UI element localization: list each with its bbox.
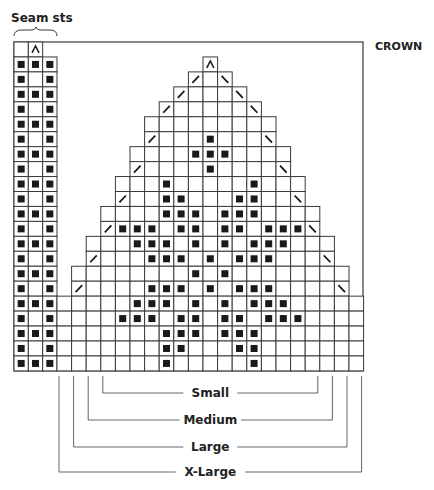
chart-cell (305, 326, 320, 341)
chart-cell (291, 206, 306, 221)
chart-cell (115, 326, 130, 341)
seam-cell (28, 281, 42, 296)
chart-cell (159, 221, 174, 236)
chart-cell (101, 296, 116, 311)
chart-cell (218, 177, 233, 192)
purl-dot-icon (192, 300, 199, 307)
purl-dot-icon (46, 315, 53, 322)
chart-cell (291, 326, 306, 341)
purl-dot-icon (18, 106, 25, 113)
chart-cell (276, 326, 291, 341)
purl-dot-icon (18, 300, 25, 307)
purl-dot-icon (221, 151, 228, 158)
purl-dot-icon (46, 136, 53, 143)
chart-cell (261, 177, 276, 192)
chart-cell (218, 341, 233, 356)
chart-cell (261, 266, 276, 281)
chart-cell (86, 326, 101, 341)
chart-cell (261, 162, 276, 177)
chart-cell (203, 72, 218, 87)
purl-dot-icon (251, 360, 258, 367)
chart-cell (115, 266, 130, 281)
purl-dot-icon (148, 255, 155, 262)
chart-cell (72, 296, 87, 311)
chart-cell (72, 326, 87, 341)
chart-cell (320, 296, 335, 311)
chart-cell (247, 311, 262, 326)
purl-dot-icon (207, 136, 214, 143)
chart-cell (72, 356, 87, 371)
chart-cell (305, 281, 320, 296)
chart-cell (218, 162, 233, 177)
chart-cell (203, 341, 218, 356)
purl-dot-icon (178, 255, 185, 262)
chart-cell (159, 311, 174, 326)
chart-cell (247, 147, 262, 162)
knitting-chart: Seam sts CROWN SmallMediumLargeX-Large (0, 0, 434, 490)
purl-dot-icon (46, 300, 53, 307)
purl-dot-icon (46, 106, 53, 113)
seam-cell (28, 132, 42, 147)
purl-dot-icon (46, 210, 53, 217)
purl-dot-icon (207, 166, 214, 173)
chart-cell (305, 206, 320, 221)
chart-cell (188, 117, 203, 132)
chart-cell (218, 102, 233, 117)
purl-dot-icon (294, 225, 301, 232)
purl-dot-icon (32, 240, 39, 247)
seam-cell (28, 102, 42, 117)
purl-dot-icon (251, 255, 258, 262)
chart-cell (188, 87, 203, 102)
chart-cell (145, 206, 160, 221)
chart-cell (101, 251, 116, 266)
purl-dot-icon (32, 61, 39, 68)
purl-dot-icon (32, 91, 39, 98)
chart-cell (57, 311, 72, 326)
purl-dot-icon (221, 300, 228, 307)
seam-cell (28, 192, 42, 207)
chart-cell (203, 192, 218, 207)
chart-cell (145, 192, 160, 207)
purl-dot-icon (251, 195, 258, 202)
purl-dot-icon (134, 300, 141, 307)
chart-cell (203, 57, 218, 72)
chart-cell (203, 326, 218, 341)
chart-cell (261, 117, 276, 132)
purl-dot-icon (18, 136, 25, 143)
purl-dot-icon (251, 210, 258, 217)
chart-cell (130, 326, 145, 341)
chart-cell (232, 162, 247, 177)
chart-cell (218, 117, 233, 132)
purl-dot-icon (294, 315, 301, 322)
purl-dot-icon (280, 315, 287, 322)
seam-cell (28, 311, 42, 326)
chart-cell (145, 326, 160, 341)
purl-dot-icon (32, 300, 39, 307)
chart-cell (232, 356, 247, 371)
chart-cell (291, 236, 306, 251)
chart-cell (86, 236, 101, 251)
chart-cell (232, 236, 247, 251)
purl-dot-icon (46, 225, 53, 232)
purl-dot-icon (251, 285, 258, 292)
purl-dot-icon (251, 345, 258, 352)
chart-cell (203, 117, 218, 132)
chart-cell (115, 281, 130, 296)
chart-cell (276, 251, 291, 266)
chart-cell (145, 147, 160, 162)
seam-sts-label: Seam sts (11, 11, 73, 25)
size-bracket-small: Small (103, 376, 318, 400)
chart-cell (203, 311, 218, 326)
purl-dot-icon (163, 360, 170, 367)
chart-cell (57, 356, 72, 371)
purl-dot-icon (207, 255, 214, 262)
purl-dot-icon (178, 315, 185, 322)
purl-dot-icon (18, 330, 25, 337)
chart-cell (145, 177, 160, 192)
seam-cell (28, 162, 42, 177)
purl-dot-icon (192, 210, 199, 217)
purl-dot-icon (280, 240, 287, 247)
purl-dot-icon (18, 270, 25, 277)
chart-cell (261, 356, 276, 371)
size-label: Small (192, 386, 229, 400)
